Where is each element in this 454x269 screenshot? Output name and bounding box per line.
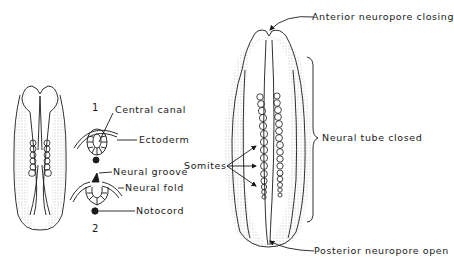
ectoderm-label: Ectoderm (139, 135, 189, 145)
neural-fold-label: Neural fold (125, 183, 184, 193)
cross-section-1 (74, 113, 137, 163)
central-canal-label: Central canal (115, 105, 186, 115)
large-embryo (224, 30, 312, 247)
cross-section-2 (70, 172, 135, 214)
neural-tube-closed-label: Neural tube closed (322, 133, 422, 143)
section-2-number: 2 (92, 224, 98, 234)
anterior-neuropore-label: Anterior neuropore closing (312, 12, 454, 22)
somites-label: Somites (184, 161, 226, 171)
posterior-neuropore-label: Posterior neuropore open (314, 246, 449, 256)
neural-groove-label: Neural groove (113, 167, 188, 177)
small-embryo (14, 86, 66, 230)
section-1-number: 1 (92, 103, 98, 113)
notocord-label: Notocord (136, 206, 184, 216)
